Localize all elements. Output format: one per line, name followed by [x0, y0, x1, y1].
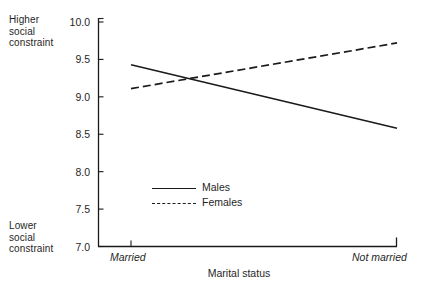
x-axis-title-text: Marital status	[164, 267, 270, 279]
legend-entry-females: Females	[152, 195, 242, 210]
axis-ticks	[99, 19, 397, 247]
series-line-females	[131, 43, 397, 89]
legend-label: Males	[202, 182, 230, 193]
legend-swatch-dashed	[152, 198, 196, 208]
legend-swatch-solid	[152, 183, 196, 193]
legend-label: Females	[202, 197, 242, 208]
series-line-males	[131, 65, 397, 129]
x-axis-category-married: Married	[110, 251, 146, 263]
legend-line-solid	[152, 188, 196, 189]
chart-legend: MalesFemales	[152, 180, 242, 210]
x-axis-title: Marital status	[0, 267, 434, 279]
data-series	[131, 43, 397, 128]
chart-figure: Higher social constraint Lower social co…	[0, 0, 434, 285]
legend-entry-males: Males	[152, 180, 242, 195]
legend-line-dashed	[152, 203, 196, 204]
x-axis-category-not-married: Not married	[352, 251, 407, 263]
plot-area	[0, 0, 434, 285]
